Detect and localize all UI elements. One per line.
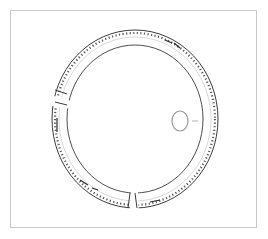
ring-illustration: [0, 0, 268, 239]
